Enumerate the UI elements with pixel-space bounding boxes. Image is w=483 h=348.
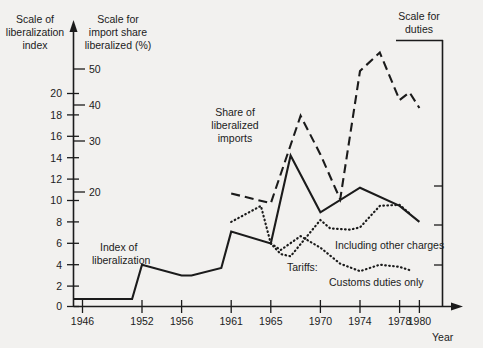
x-tick-label: 1961 bbox=[220, 315, 244, 327]
y-tick-label: 14 bbox=[50, 152, 62, 164]
annotation-line: liberalization bbox=[92, 254, 151, 266]
axis-title-mid-line3: liberalized (%) bbox=[85, 39, 152, 51]
y-tick-label: 20 bbox=[50, 87, 62, 99]
x-tick-label: 1965 bbox=[259, 315, 283, 327]
y-tick-label-mid: 50 bbox=[89, 63, 101, 75]
liberalization-chart: 20 18 16 14 12 10 8 6 4 2 0 50 40 30 20 … bbox=[0, 0, 483, 348]
x-tick-label: 1970 bbox=[309, 315, 333, 327]
y-tick-label-mid: 20 bbox=[89, 186, 101, 198]
x-tick-label: 1956 bbox=[170, 315, 194, 327]
axis-title-mid-line1: Scale for bbox=[97, 13, 139, 25]
axis-title-left-line2: liberalization bbox=[6, 26, 65, 38]
annotation-customs-duties-only: Customs duties only bbox=[329, 276, 424, 288]
annotation-share-of-liberalized-imports: Share of liberalized imports bbox=[211, 106, 258, 144]
annotation-line: imports bbox=[218, 132, 252, 144]
axis-title-left-line3: index bbox=[22, 39, 48, 51]
y-tick-label: 18 bbox=[50, 109, 62, 121]
axis-title-mid-line2: import share bbox=[89, 26, 148, 38]
x-tick-label: 1980 bbox=[408, 315, 432, 327]
chart-background bbox=[0, 0, 483, 348]
y-tick-label: 0 bbox=[56, 300, 62, 312]
y-tick-label-mid: 30 bbox=[89, 135, 101, 147]
annotation-line: liberalized bbox=[211, 119, 258, 131]
x-axis-title: Year bbox=[432, 331, 454, 343]
y-tick-label: 10 bbox=[50, 194, 62, 206]
y-tick-label: 12 bbox=[50, 173, 62, 185]
y-tick-label: 8 bbox=[56, 216, 62, 228]
annotation-line: Share of bbox=[215, 106, 255, 118]
x-tick-label: 1974 bbox=[348, 315, 372, 327]
y-tick-label: 2 bbox=[56, 280, 62, 292]
y-tick-label-mid: 40 bbox=[89, 99, 101, 111]
y-tick-label: 16 bbox=[50, 130, 62, 142]
annotation-line: Index of bbox=[100, 241, 137, 253]
x-tick-label: 1946 bbox=[71, 315, 95, 327]
axis-title-left-line1: Scale of bbox=[16, 13, 54, 25]
x-tick-label: 1952 bbox=[130, 315, 154, 327]
axis-title-right-line1: Scale for bbox=[398, 10, 440, 22]
axis-title-right-line2: duties bbox=[405, 23, 433, 35]
y-tick-label: 6 bbox=[56, 237, 62, 249]
y-tick-label: 4 bbox=[56, 259, 62, 271]
annotation-tariffs: Tariffs: bbox=[287, 261, 318, 273]
chart-svg: 20 18 16 14 12 10 8 6 4 2 0 50 40 30 20 … bbox=[0, 0, 483, 348]
annotation-including-other-charges: Including other charges bbox=[335, 239, 444, 251]
